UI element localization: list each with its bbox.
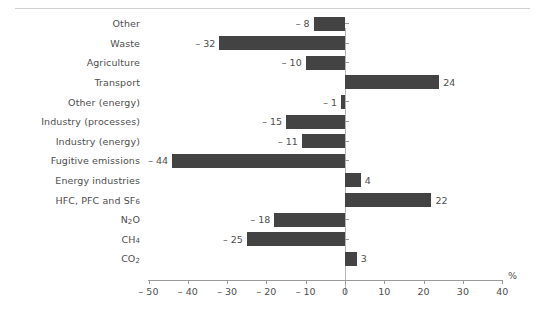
category-tick xyxy=(345,239,349,240)
x-axis-line xyxy=(148,280,503,281)
chart-row: Transport24 xyxy=(0,73,536,93)
bar-value-label: – 8 xyxy=(0,14,310,34)
bar-value-label: 4 xyxy=(365,171,425,191)
chart-row: Fugitive emissions– 44 xyxy=(0,151,536,171)
bar xyxy=(345,252,357,266)
x-axis-tick-label: 40 xyxy=(479,286,525,297)
x-axis-tick xyxy=(345,280,346,284)
category-label: Energy industries xyxy=(0,171,140,191)
bar xyxy=(274,213,345,227)
x-axis-tick xyxy=(266,280,267,284)
bar-value-label: – 44 xyxy=(0,151,168,171)
bar xyxy=(314,17,345,31)
chart-row: HFC, PFC and SF622 xyxy=(0,190,536,210)
x-axis-tick xyxy=(306,280,307,284)
bar xyxy=(286,115,345,129)
chart-row: N2O– 18 xyxy=(0,210,536,230)
category-tick xyxy=(345,219,349,220)
bar-value-label: – 11 xyxy=(0,132,298,152)
x-axis-tick xyxy=(149,280,150,284)
category-tick xyxy=(345,43,349,44)
chart-row: Other (energy)– 1 xyxy=(0,92,536,112)
chart-row: CO23 xyxy=(0,249,536,269)
x-axis-tick xyxy=(188,280,189,284)
bar-value-label: – 10 xyxy=(0,53,302,73)
chart-row: Other– 8 xyxy=(0,14,536,34)
bar-value-label: 22 xyxy=(435,190,495,210)
bar-value-label: – 32 xyxy=(0,34,215,54)
chart-row: CH4– 25 xyxy=(0,230,536,250)
bar-value-label: 24 xyxy=(443,73,503,93)
category-tick xyxy=(345,141,349,142)
bar-value-label: 3 xyxy=(361,249,421,269)
bar-value-label: – 25 xyxy=(0,230,243,250)
chart-row: Waste– 32 xyxy=(0,34,536,54)
chart-row: Agriculture– 10 xyxy=(0,53,536,73)
x-axis-tick xyxy=(384,280,385,284)
category-tick xyxy=(345,101,349,102)
chart-row: Industry (processes)– 15 xyxy=(0,112,536,132)
emissions-change-bar-chart: Other– 8Waste– 32Agriculture– 10Transpor… xyxy=(0,0,536,314)
x-axis-tick xyxy=(227,280,228,284)
plot-area: Other– 8Waste– 32Agriculture– 10Transpor… xyxy=(0,14,536,276)
bar xyxy=(219,36,345,50)
category-label: CO2 xyxy=(0,249,140,269)
x-axis-tick xyxy=(463,280,464,284)
bar-value-label: – 1 xyxy=(0,92,337,112)
x-axis-unit-label: % xyxy=(508,270,517,281)
bar xyxy=(345,75,439,89)
bar-value-label: – 15 xyxy=(0,112,282,132)
bar xyxy=(306,56,345,70)
top-divider-rule xyxy=(15,8,530,9)
bar xyxy=(341,95,345,109)
category-tick xyxy=(345,160,349,161)
chart-row: Energy industries4 xyxy=(0,171,536,191)
bar xyxy=(247,232,345,246)
category-label: Transport xyxy=(0,73,140,93)
bar-value-label: – 18 xyxy=(0,210,270,230)
x-axis-tick xyxy=(424,280,425,284)
chart-row: Industry (energy)– 11 xyxy=(0,132,536,152)
x-axis-tick xyxy=(502,280,503,284)
bar xyxy=(172,154,345,168)
category-tick xyxy=(345,121,349,122)
category-tick xyxy=(345,62,349,63)
bar xyxy=(345,193,431,207)
category-label: HFC, PFC and SF6 xyxy=(0,190,140,210)
category-tick xyxy=(345,23,349,24)
bar xyxy=(345,173,361,187)
bar xyxy=(302,134,345,148)
